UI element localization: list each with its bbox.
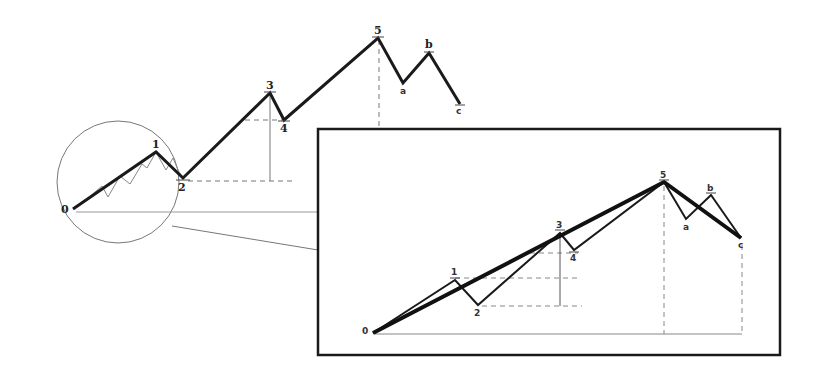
label-inset-c: c <box>738 240 743 250</box>
label-main-a: a <box>400 86 406 96</box>
label-main-1: 1 <box>152 138 160 151</box>
label-main-3: 3 <box>266 79 274 92</box>
label-inset-1: 1 <box>451 267 457 277</box>
label-inset-5: 5 <box>660 170 666 180</box>
zoom-connector-line <box>172 226 318 250</box>
label-main-4: 4 <box>280 122 288 135</box>
label-inset-b: b <box>707 183 714 193</box>
label-main-2: 2 <box>178 181 186 194</box>
label-main-5: 5 <box>374 24 382 37</box>
label-inset-0: 0 <box>362 326 368 336</box>
label-inset-2: 2 <box>474 308 480 318</box>
zoom-circle <box>57 121 179 243</box>
label-main-c: c <box>456 106 461 116</box>
label-inset-3: 3 <box>556 220 562 230</box>
label-main-0: 0 <box>61 203 69 216</box>
label-inset-4: 4 <box>570 253 576 263</box>
label-main-b: b <box>425 38 433 51</box>
elliott-wave-diagram: 0 1 2 3 4 5 a b c 0 1 2 3 4 5 a b c <box>0 0 822 376</box>
label-inset-a: a <box>683 222 689 232</box>
